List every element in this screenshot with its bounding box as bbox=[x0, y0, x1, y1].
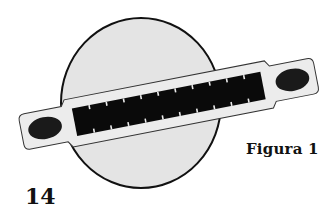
figure-illustration bbox=[0, 0, 336, 211]
figure: Figura 1 14 bbox=[0, 0, 336, 211]
figure-caption: Figura 1 bbox=[246, 140, 319, 158]
page-number: 14 bbox=[25, 183, 56, 209]
